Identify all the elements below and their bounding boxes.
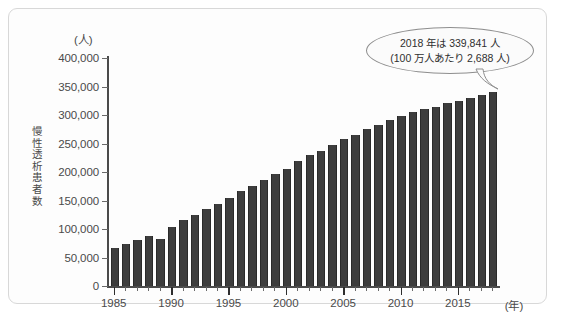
bar-1995 [225,198,233,286]
bar-2008 [374,125,382,286]
x-axis-ticks: 1985199019952000200520102015(年) [108,287,498,297]
y-tick-mark [102,87,108,88]
bar-1988 [145,236,153,286]
x-axis-unit-label: (年) [505,297,524,313]
x-tick-2012 [423,287,424,291]
y-tick-label: 300,000 [58,109,99,121]
bar-2012 [420,109,428,286]
x-tick-2018 [492,287,493,291]
y-tick-label: 0 [93,280,99,292]
y-tick-mark [102,144,108,145]
x-tick-1992 [194,287,195,291]
bar-2015 [455,101,463,286]
bar-2011 [409,112,417,286]
y-axis-title-char-0: 慢 [29,126,45,138]
x-tick-label-2015: 2015 [445,297,471,309]
x-tick-2002 [309,287,310,291]
y-axis-title: 慢性透析患者数 [29,126,45,207]
x-tick-2004 [332,287,333,291]
x-tick-label-1985: 1985 [101,297,127,309]
bar-2018 [489,92,497,286]
x-tick-label-1990: 1990 [158,297,184,309]
y-tick-label: 400,000 [58,52,99,64]
bar-1997 [248,186,256,286]
bar-2001 [294,161,302,286]
x-tick-1999 [274,287,275,291]
bar-2004 [328,145,336,286]
y-tick-label: 350,000 [58,81,99,93]
bar-1998 [260,180,268,286]
x-tick-2011 [412,287,413,291]
x-tick-2013 [435,287,436,291]
x-tick-1985 [114,287,116,295]
bar-2016 [466,98,474,286]
bar-2009 [386,120,394,286]
y-tick-mark [102,172,108,173]
x-tick-1990 [171,287,173,295]
x-tick-1997 [251,287,252,291]
y-tick-mark [102,229,108,230]
bar-1993 [202,209,210,286]
bar-1987 [133,240,141,286]
callout-line-2: (100 万人あたり 2,688 人) [390,51,510,66]
x-tick-label-1995: 1995 [216,297,242,309]
bar-2010 [397,116,405,286]
bar-2000 [283,169,291,286]
bar-1994 [214,204,222,286]
bar-2002 [306,155,314,286]
y-axis-title-char-5: 者 [29,184,45,196]
x-tick-2007 [366,287,367,291]
plot-area: 400,000350,000300,000250,000200,000150,0… [108,58,498,286]
x-tick-1998 [263,287,264,291]
x-tick-1986 [125,287,126,291]
bar-2007 [363,129,371,286]
x-tick-2009 [389,287,390,291]
x-tick-2010 [401,287,403,295]
x-tick-2017 [481,287,482,291]
x-tick-1987 [137,287,138,291]
bar-1992 [191,215,199,286]
bar-1999 [271,174,279,286]
x-tick-label-2010: 2010 [388,297,414,309]
callout-annotation: 2018 年は 339,841 人 (100 万人あたり 2,688 人) [366,27,534,74]
x-tick-2003 [320,287,321,291]
bar-2003 [317,151,325,286]
x-tick-1994 [217,287,218,291]
y-tick-mark [102,258,108,259]
chart-figure: (人) 慢性透析患者数 400,000350,000300,000250,000… [0,0,563,321]
y-tick-label: 50,000 [64,252,99,264]
x-tick-1988 [148,287,149,291]
x-tick-1993 [206,287,207,291]
bar-1991 [179,220,187,286]
y-tick-label: 250,000 [58,138,99,150]
bar-2006 [351,135,359,286]
x-tick-1995 [228,287,230,295]
bar-2017 [478,95,486,286]
bar-2013 [432,107,440,286]
bar-1996 [237,191,245,286]
x-tick-1991 [183,287,184,291]
y-tick-mark [102,201,108,202]
bar-2005 [340,139,348,286]
x-tick-2014 [446,287,447,291]
y-tick-mark [102,115,108,116]
bar-1989 [156,239,164,286]
x-tick-label-2000: 2000 [273,297,299,309]
x-tick-2016 [469,287,470,291]
y-tick-mark [102,58,108,59]
callout-text: 2018 年は 339,841 人 (100 万人あたり 2,688 人) [366,27,534,74]
y-tick-label: 150,000 [58,195,99,207]
bar-1990 [168,227,176,286]
x-tick-1996 [240,287,241,291]
y-tick-label: 200,000 [58,166,99,178]
x-tick-2001 [297,287,298,291]
x-tick-label-2005: 2005 [330,297,356,309]
x-tick-1989 [160,287,161,291]
y-tick-label: 100,000 [58,223,99,235]
x-tick-2008 [378,287,379,291]
y-axis-title-char-6: 数 [29,196,45,208]
x-tick-2005 [343,287,345,295]
callout-tail-icon [474,67,500,91]
bar-2014 [443,103,451,286]
x-tick-2015 [458,287,460,295]
